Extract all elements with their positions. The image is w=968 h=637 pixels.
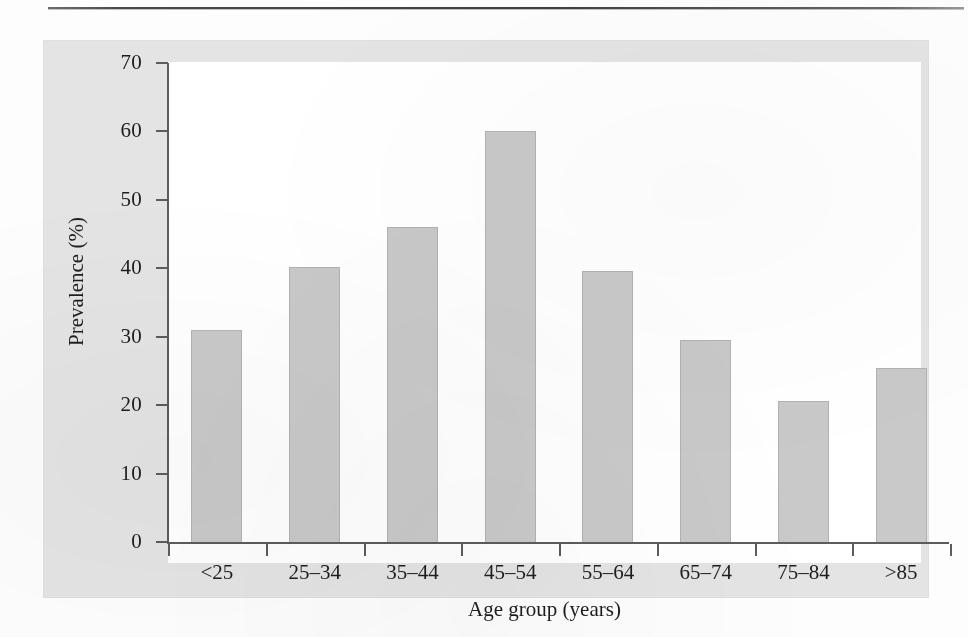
x-tick-label: 45–54 <box>484 562 537 583</box>
x-tick-mark <box>755 544 757 556</box>
y-tick-mark <box>156 336 168 338</box>
y-tick-label: 20 <box>80 394 142 415</box>
bar <box>387 227 438 542</box>
y-tick-mark <box>156 473 168 475</box>
bar <box>680 340 731 542</box>
bar <box>778 401 829 542</box>
y-tick-mark <box>156 130 168 132</box>
x-tick-mark <box>852 544 854 556</box>
x-tick-label: 65–74 <box>679 562 732 583</box>
x-tick-mark <box>266 544 268 556</box>
y-tick-label: 50 <box>80 189 142 210</box>
y-tick-label: 40 <box>80 257 142 278</box>
x-tick-label: 75–84 <box>777 562 830 583</box>
y-tick-label: 30 <box>80 326 142 347</box>
y-tick-mark <box>156 541 168 543</box>
y-tick-mark <box>156 62 168 64</box>
bar <box>876 368 927 542</box>
x-tick-mark <box>559 544 561 556</box>
page-top-rule-shadow <box>48 9 964 10</box>
bar <box>485 131 536 542</box>
y-tick-mark <box>156 267 168 269</box>
scanned-page: 010203040506070 <2525–3435–4445–5455–646… <box>0 0 968 637</box>
y-tick-label: 70 <box>80 52 142 73</box>
y-axis-title: Prevalence (%) <box>64 132 89 432</box>
y-tick-mark <box>156 404 168 406</box>
figure-panel: 010203040506070 <2525–3435–4445–5455–646… <box>44 41 928 597</box>
x-tick-label: >85 <box>885 562 918 583</box>
x-tick-mark <box>461 544 463 556</box>
y-tick-label: 0 <box>80 531 142 552</box>
x-tick-label: <25 <box>200 562 233 583</box>
x-axis-line <box>167 542 949 544</box>
y-tick-label: 60 <box>80 120 142 141</box>
bar <box>191 330 242 542</box>
bar <box>582 271 633 542</box>
x-tick-mark <box>364 544 366 556</box>
x-tick-mark <box>950 544 952 556</box>
x-axis-title: Age group (years) <box>168 597 921 622</box>
x-tick-label: 55–64 <box>582 562 635 583</box>
x-tick-label: 35–44 <box>386 562 439 583</box>
x-tick-mark <box>657 544 659 556</box>
bar <box>289 267 340 542</box>
x-tick-mark <box>168 544 170 556</box>
y-tick-label: 10 <box>80 463 142 484</box>
x-tick-label: 25–34 <box>288 562 341 583</box>
y-tick-mark <box>156 199 168 201</box>
